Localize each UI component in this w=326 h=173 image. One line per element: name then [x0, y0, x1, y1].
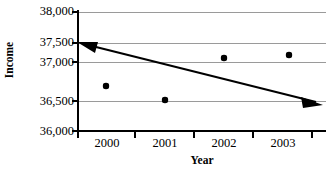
- plot-area: [0, 0, 326, 173]
- x-axis-ticks: [78, 131, 312, 138]
- income-by-year-chart: Income Year 38,000 37,500 37,000 36,500 …: [0, 0, 326, 173]
- trend-arrow: [77, 42, 323, 108]
- data-points: [103, 52, 292, 103]
